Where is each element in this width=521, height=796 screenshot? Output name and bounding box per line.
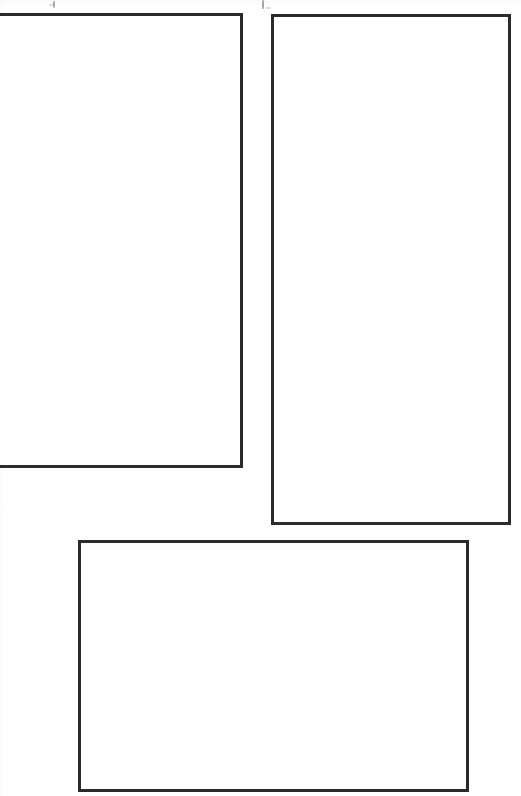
- scan-speck-left-2: [49, 4, 53, 6]
- upper-right-frame-content: [274, 17, 508, 522]
- upper-right-frame[interactable]: [271, 14, 511, 525]
- scan-speck-left: [53, 1, 55, 8]
- upper-left-frame-content: [0, 16, 240, 465]
- lower-center-frame-content: [81, 543, 466, 789]
- scan-speck-right: [262, 0, 264, 9]
- scan-speck-right-2: [266, 7, 271, 9]
- scanned-page: [0, 0, 521, 796]
- upper-left-frame[interactable]: [0, 13, 243, 468]
- lower-center-frame[interactable]: [78, 540, 469, 792]
